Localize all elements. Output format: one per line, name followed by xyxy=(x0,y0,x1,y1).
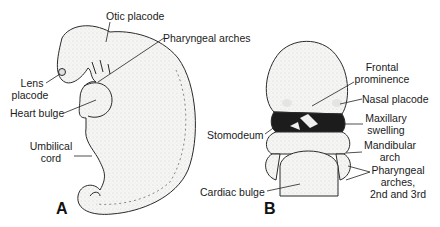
label-lens-placode-line1: Lens xyxy=(12,77,52,89)
label-heart-bulge: Heart bulge xyxy=(10,107,64,119)
label-nasal-placode: Nasal placode xyxy=(362,93,429,105)
embryo-figure: Otic placode Pharyngeal arches Lens plac… xyxy=(0,0,440,227)
embryo-lateral-view xyxy=(57,26,195,215)
label-otic-placode: Otic placode xyxy=(106,10,164,22)
label-pharyngeal-arches-b-line1: Pharyngeal xyxy=(368,164,428,176)
label-stomodeum: Stomodeum xyxy=(207,129,264,141)
label-lens-placode-line2: placode xyxy=(8,89,52,101)
label-frontal-prominence-line2: prominence xyxy=(352,73,412,85)
embryo-body-outline xyxy=(57,26,195,215)
label-umbilical-cord-line2: cord xyxy=(26,152,76,164)
nasal-placode-left xyxy=(282,99,292,107)
cardiac-bulge-outline xyxy=(280,151,338,196)
label-mandibular-arch-line2: arch xyxy=(360,151,420,163)
panel-letter-b: B xyxy=(264,200,276,218)
label-mandibular-arch-line1: Mandibular xyxy=(360,139,420,151)
nasal-placode-right xyxy=(332,99,342,107)
label-cardiac-bulge: Cardiac bulge xyxy=(200,186,265,198)
label-maxillary-swelling-line2: swelling xyxy=(360,124,412,136)
label-pharyngeal-arches-b-line3: 2nd and 3rd xyxy=(365,188,431,200)
label-umbilical-cord-line1: Umbilical xyxy=(26,140,76,152)
label-maxillary-swelling-line1: Maxillary xyxy=(360,112,412,124)
label-pharyngeal-arches-a: Pharyngeal arches xyxy=(163,32,251,44)
panel-letter-a: A xyxy=(56,200,68,218)
label-frontal-prominence-line1: Frontal xyxy=(352,61,412,73)
label-pharyngeal-arches-b-line2: arches, xyxy=(368,176,428,188)
pharyngeal-arch-left xyxy=(266,154,280,180)
embryo-frontal-view xyxy=(266,41,351,196)
